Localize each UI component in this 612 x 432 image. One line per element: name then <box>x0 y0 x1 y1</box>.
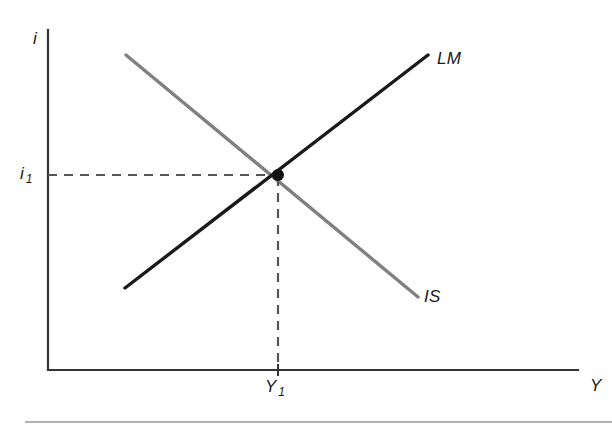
x-tick-subscript: 1 <box>278 385 285 399</box>
is-lm-plot <box>0 0 612 432</box>
is-curve-label: IS <box>424 288 440 305</box>
y-tick-subscript: 1 <box>26 172 33 186</box>
x-tick-base: Y <box>265 377 276 396</box>
y-axis-tick-label-i1: i1 <box>20 165 30 182</box>
y-axis-label: i <box>33 30 37 47</box>
x-axis-tick-label-y1: Y1 <box>265 378 283 395</box>
lm-curve-label: LM <box>437 50 461 67</box>
is-lm-figure: i i1 Y Y1 LM IS <box>0 0 612 432</box>
equilibrium-point <box>272 169 284 181</box>
x-axis-label: Y <box>590 377 601 394</box>
y-tick-base: i <box>20 164 24 183</box>
